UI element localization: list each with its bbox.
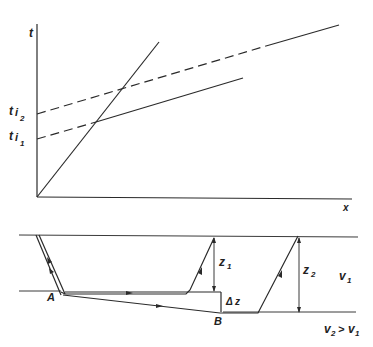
point-A-label: A: [46, 291, 55, 303]
intercept-label-ti2: t i 2: [9, 104, 25, 123]
ground-surface: [19, 235, 358, 237]
refraction-1-dashed: [37, 122, 96, 139]
svg-text:i: i: [15, 106, 19, 118]
svg-text:i: i: [15, 131, 19, 143]
refraction-2-solid: [266, 25, 339, 46]
z2-label: z 2: [302, 263, 316, 279]
t-axis-label: t: [29, 26, 34, 40]
direct-wave-line: [37, 42, 159, 197]
svg-text:1: 1: [355, 329, 360, 338]
arrowhead-AB: [156, 304, 163, 308]
x-axis-label: x: [342, 202, 349, 213]
delta-z-label: Δ z: [225, 296, 240, 307]
svg-text:t: t: [9, 104, 14, 118]
seismic-refraction-figure: t x t i 2 t i 1: [0, 0, 373, 347]
svg-text:2: 2: [310, 270, 316, 279]
intercept-label-ti1: t i 1: [9, 129, 25, 148]
z1-arrow-bottom: [212, 286, 216, 292]
point-B-label: B: [214, 315, 222, 327]
cross-section: A B z 1 z 2 Δ z v 1 v 2 > v 1: [19, 235, 360, 338]
downgoing-ray-2: [39, 235, 65, 294]
travel-time-plot: t x t i 2 t i 1: [9, 24, 352, 213]
downgoing-ray-1: [36, 235, 61, 295]
headwave-layer-1: [61, 238, 214, 294]
svg-text:z: z: [218, 255, 225, 269]
refraction-1-solid: [96, 78, 243, 122]
v2-gt-v1-label: v 2 > v 1: [324, 322, 360, 338]
arrowhead-down-2: [49, 268, 54, 274]
svg-text:t: t: [9, 129, 14, 143]
svg-text:1: 1: [227, 262, 232, 271]
refraction-2-dashed: [37, 46, 266, 114]
svg-text:>: >: [338, 323, 345, 335]
svg-text:2: 2: [19, 114, 25, 123]
svg-text:z: z: [302, 263, 309, 277]
svg-text:2: 2: [330, 329, 336, 338]
x-axis: [37, 197, 352, 199]
svg-text:1: 1: [20, 139, 25, 148]
z1-label: z 1: [218, 255, 232, 271]
svg-text:v: v: [339, 269, 347, 283]
svg-text:1: 1: [347, 276, 352, 285]
v1-label: v 1: [339, 269, 352, 285]
headwave-layer-2: [63, 236, 298, 313]
